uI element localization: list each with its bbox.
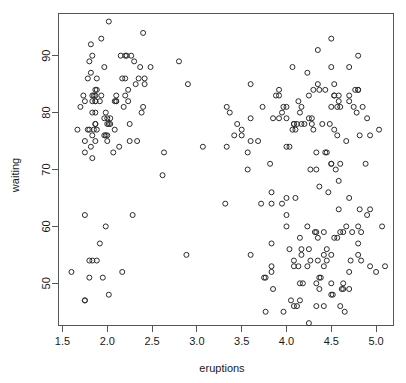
x-tick-label: 2.5	[144, 335, 159, 347]
x-tick-label: 1.5	[55, 335, 70, 347]
x-tick-label: 4.5	[324, 335, 339, 347]
x-tick-label: 3.5	[234, 335, 249, 347]
x-tick-label: 5.0	[368, 335, 383, 347]
y-tick-label: 70	[40, 163, 52, 175]
y-tick-label: 80	[40, 106, 52, 118]
plot-canvas: 1.52.02.53.03.54.04.55.0 5060708090 erup…	[0, 0, 406, 383]
x-tick-label: 2.0	[100, 335, 115, 347]
x-tick-label: 3.0	[189, 335, 204, 347]
y-axis-title: waiting	[9, 158, 21, 193]
scatter-plot-figure: 1.52.02.53.03.54.04.55.0 5060708090 erup…	[0, 0, 406, 383]
x-axis-title: eruptions	[199, 362, 245, 374]
x-tick-label: 4.0	[279, 335, 294, 347]
y-tick-label: 50	[40, 277, 52, 289]
y-tick-label: 60	[40, 220, 52, 232]
y-tick-label: 90	[40, 50, 52, 62]
